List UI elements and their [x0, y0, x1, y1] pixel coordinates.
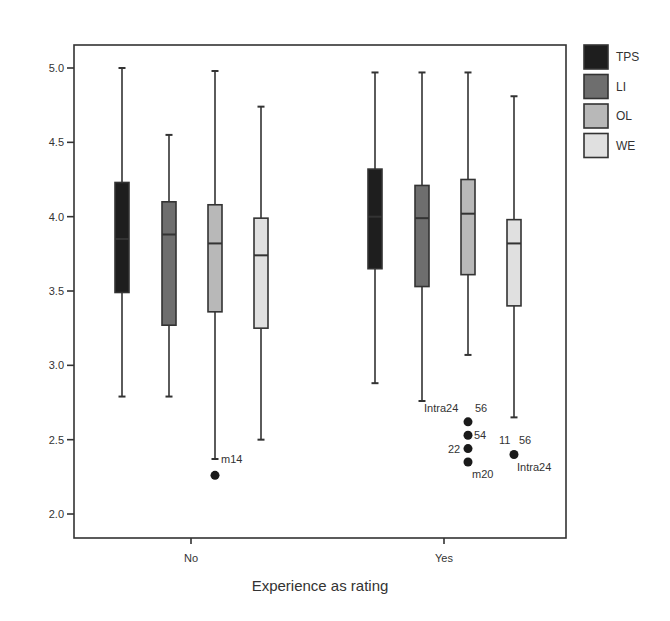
legend-swatch	[584, 75, 608, 99]
legend-item-li: LI	[584, 75, 626, 99]
outlier-label: 56	[475, 402, 487, 414]
y-tick-label: 2.0	[49, 508, 64, 520]
x-axis-title: Experience as rating	[252, 577, 389, 594]
box-we-yes	[507, 96, 521, 417]
box-we-no	[254, 107, 268, 440]
outlier-label: 11	[499, 434, 510, 446]
y-tick-label: 5.0	[49, 62, 64, 74]
outlier-point	[211, 471, 220, 480]
iqr-box	[254, 218, 268, 328]
outlier-point	[464, 444, 473, 453]
y-tick-label: 3.5	[49, 285, 64, 297]
legend-label: OL	[616, 109, 632, 123]
box-li-yes	[415, 72, 429, 401]
legend: TPSLIOLWE	[584, 45, 639, 158]
legend-item-tps: TPS	[584, 45, 639, 69]
y-axis: 2.02.53.03.54.04.55.0	[49, 62, 74, 520]
legend-swatch	[584, 104, 608, 128]
box-ol-no	[208, 71, 222, 459]
plot-border	[74, 45, 566, 538]
legend-item-we: WE	[584, 134, 635, 158]
box-series-group	[115, 68, 521, 459]
outlier-label: 54	[474, 429, 486, 441]
y-tick-label: 4.5	[49, 136, 64, 148]
legend-swatch	[584, 45, 608, 69]
iqr-box	[115, 182, 129, 292]
x-axis: NoYes	[184, 538, 453, 564]
boxplot-chart: 2.02.53.03.54.04.55.0 NoYes m14Intra2456…	[0, 0, 670, 621]
iqr-box	[507, 220, 521, 306]
y-tick-label: 3.0	[49, 359, 64, 371]
box-tps-yes	[368, 72, 382, 383]
y-tick-label: 2.5	[49, 434, 64, 446]
plot-frame	[74, 45, 566, 538]
outlier-label: m14	[221, 453, 242, 465]
outlier-label: Intra24	[424, 402, 458, 414]
outlier-label: 22	[448, 443, 460, 455]
x-tick-label-yes: Yes	[435, 552, 453, 564]
x-tick-label-no: No	[184, 552, 198, 564]
box-tps-no	[115, 68, 129, 397]
iqr-box	[208, 205, 222, 312]
legend-label: LI	[616, 80, 626, 94]
outlier-point	[464, 417, 473, 426]
iqr-box	[162, 202, 176, 325]
outlier-label: m20	[472, 468, 493, 480]
legend-label: TPS	[616, 50, 639, 64]
legend-swatch	[584, 134, 608, 158]
y-tick-label: 4.0	[49, 211, 64, 223]
outlier-label: 56	[519, 434, 531, 446]
legend-label: WE	[616, 139, 635, 153]
iqr-box	[461, 180, 475, 275]
outlier-point	[510, 450, 519, 459]
box-li-no	[162, 135, 176, 397]
outlier-point	[464, 431, 473, 440]
outlier-label: Intra24	[517, 461, 551, 473]
box-ol-yes	[461, 72, 475, 354]
outlier-point	[464, 457, 473, 466]
iqr-box	[368, 169, 382, 269]
legend-item-ol: OL	[584, 104, 632, 128]
iqr-box	[415, 185, 429, 286]
